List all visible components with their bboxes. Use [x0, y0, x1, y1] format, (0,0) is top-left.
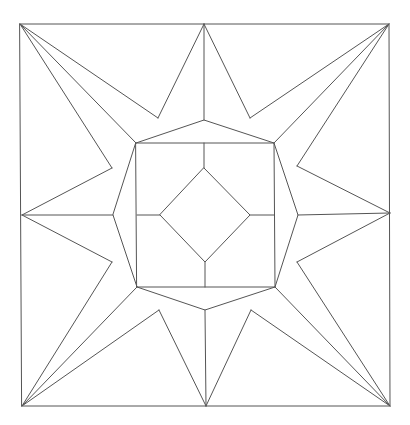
- star-arm: [251, 310, 390, 406]
- star-ray-bl: [22, 287, 137, 406]
- star-arm: [297, 24, 389, 166]
- star-arm: [22, 168, 112, 215]
- center-diamond: [160, 168, 250, 262]
- star-quilt-diagram: [0, 0, 410, 425]
- star-ray-br: [275, 287, 390, 406]
- star-arm: [159, 310, 206, 406]
- star-arm: [20, 24, 112, 168]
- diagram-lines: [20, 24, 390, 406]
- star-arm: [297, 166, 390, 213]
- star-arm: [158, 24, 204, 118]
- star-arm: [20, 24, 158, 118]
- star-ray-tl: [20, 24, 136, 143]
- star-ray-tr: [274, 24, 389, 143]
- right-axis-line: [298, 213, 390, 215]
- star-arm: [22, 215, 112, 262]
- star-arm: [22, 262, 112, 406]
- star-arm: [204, 24, 250, 118]
- star-arm: [22, 310, 159, 406]
- star-arm: [206, 310, 251, 406]
- star-arm: [250, 24, 389, 118]
- star-arm: [297, 262, 390, 406]
- bottom-axis-line: [205, 310, 206, 406]
- star-arm: [297, 213, 390, 262]
